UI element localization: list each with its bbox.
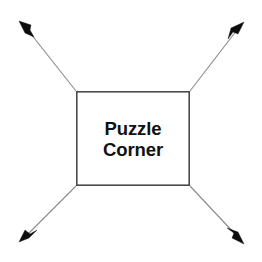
arrow-top-left-line	[27, 29, 76, 91]
arrow-top-left	[19, 21, 76, 91]
radiating-arrows-diagram	[0, 0, 262, 262]
arrow-bottom-left-head	[19, 230, 37, 242]
arrow-top-right-line	[190, 30, 237, 91]
arrow-bottom-left	[19, 186, 76, 242]
arrow-top-left-head	[19, 21, 34, 37]
arrow-bottom-right-head	[227, 228, 244, 244]
arrow-bottom-left-line	[28, 186, 76, 234]
diagram-canvas: Puzzle Corner	[0, 0, 262, 262]
arrow-top-right-head	[228, 22, 244, 39]
arrow-bottom-right-line	[190, 186, 236, 235]
arrow-top-right	[190, 22, 244, 91]
center-box	[77, 92, 189, 185]
arrow-bottom-right	[190, 186, 244, 244]
